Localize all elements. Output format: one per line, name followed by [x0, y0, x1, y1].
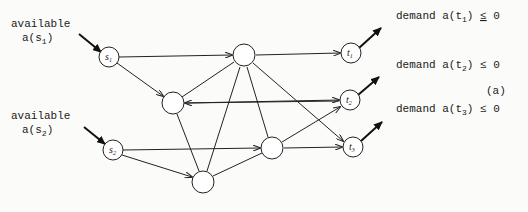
- svg-text:available: available: [11, 18, 70, 30]
- node-t2: t2: [340, 90, 360, 110]
- svg-text:available: available: [11, 110, 70, 122]
- edge-D-t3: [284, 147, 342, 148]
- edge-s1-B: [117, 63, 163, 96]
- caption-t3: demand a(t3) ≤ 0: [396, 103, 500, 117]
- svg-text:demand a(t2) ≤ 0: demand a(t2) ≤ 0: [396, 59, 500, 73]
- svg-text:demand a(t3) ≤ 0: demand a(t3) ≤ 0: [396, 103, 500, 117]
- node-t1: t1: [341, 43, 361, 63]
- caption-t2: demand a(t2) ≤ 0: [396, 59, 500, 73]
- edge-A-B: [182, 62, 234, 97]
- node-s2: s2: [103, 140, 123, 160]
- node-t3: t3: [343, 137, 363, 157]
- supply-arrow-s1: [79, 34, 101, 52]
- edge-s2-C: [122, 155, 192, 177]
- caption-s2: available a(s2): [11, 110, 70, 138]
- caption-s1: available a(s1): [11, 18, 70, 46]
- figure-label: (a): [486, 85, 506, 97]
- edge-A-t1: [256, 53, 340, 55]
- supply-arrow-s2: [84, 127, 105, 144]
- svg-text:demand a(t1) ≤ 0: demand a(t1) ≤ 0: [396, 10, 500, 24]
- edge-B-C: [177, 114, 199, 171]
- network-flow-diagram: s1 s2 t1 t2 t3 available a(s1) available…: [0, 0, 528, 212]
- node-C: [192, 171, 214, 193]
- demand-arrow-t3: [361, 122, 382, 141]
- svg-text:a(s1): a(s1): [22, 32, 53, 46]
- caption-t1: demand a(t1) ≤ 0: [396, 10, 500, 24]
- edges: [117, 53, 343, 177]
- node-B: [162, 92, 184, 114]
- edge-D-t2: [282, 107, 340, 142]
- demand-arrow-t2: [358, 77, 379, 95]
- edge-C-D: [213, 153, 262, 176]
- edge-A-C: [207, 67, 240, 171]
- edge-s2-D: [123, 148, 260, 150]
- node-s1: s1: [99, 47, 119, 67]
- svg-text:a(s2): a(s2): [22, 124, 53, 138]
- node-A: [233, 44, 255, 66]
- node-D: [261, 137, 283, 159]
- edge-s1-A: [119, 55, 232, 57]
- demand-arrow-t1: [359, 28, 381, 48]
